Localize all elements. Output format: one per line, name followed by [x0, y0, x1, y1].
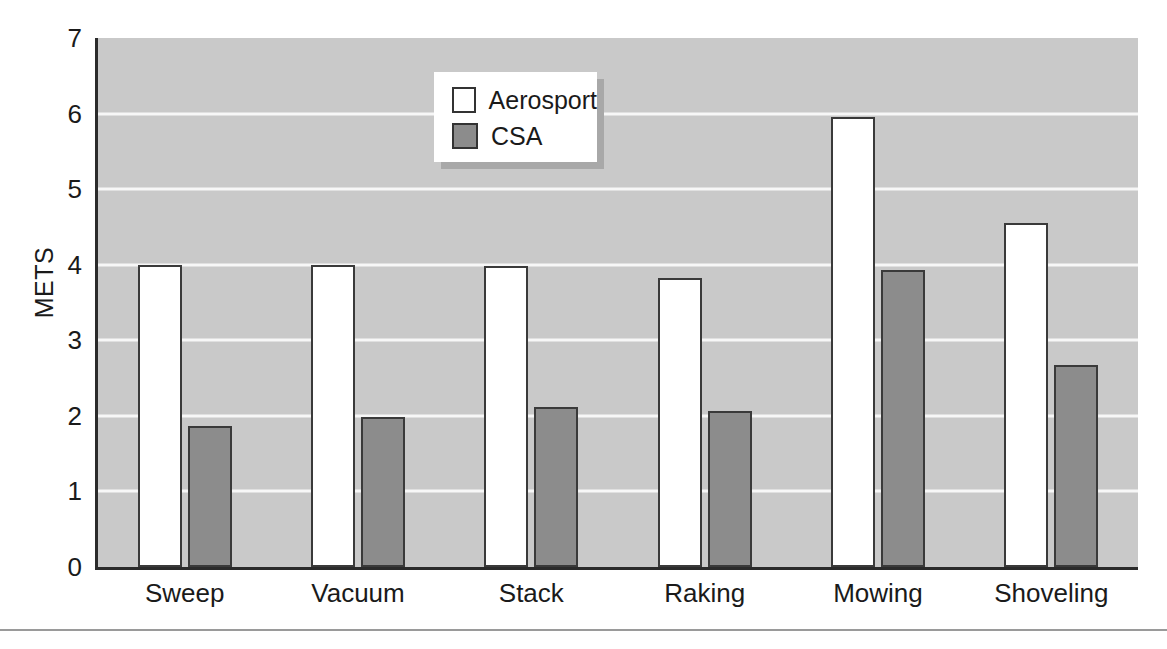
bar-shoveling-csa: [1054, 365, 1098, 567]
y-tick-4: 4: [46, 252, 82, 278]
bar-group-vacuum: [271, 38, 444, 567]
x-tick-raking: Raking: [618, 578, 791, 609]
bar-stack-csa: [534, 407, 578, 567]
bar-raking-csa: [708, 411, 752, 567]
bottom-rule: [0, 629, 1167, 631]
bar-chart-figure: METS 01234567 SweepVacuumStackRakingMowi…: [0, 0, 1167, 649]
plot-area: [95, 38, 1138, 570]
x-tick-vacuum: Vacuum: [271, 578, 444, 609]
bar-group-raking: [618, 38, 791, 567]
legend-entry-aerosport: Aerosport: [452, 83, 597, 117]
bar-vacuum-csa: [361, 417, 405, 567]
legend-label-csa: CSA: [491, 124, 542, 149]
y-tick-3: 3: [46, 327, 82, 353]
y-tick-7: 7: [46, 25, 82, 51]
bar-group-mowing: [791, 38, 964, 567]
y-axis-tick-labels: 01234567: [46, 38, 82, 567]
bar-sweep-csa: [188, 426, 232, 567]
y-tick-2: 2: [46, 403, 82, 429]
legend-swatch-aerosport: [452, 87, 476, 113]
bar-raking-aerosport: [658, 278, 702, 567]
x-axis-tick-labels: SweepVacuumStackRakingMowingShoveling: [98, 578, 1138, 609]
legend-swatch-csa: [452, 123, 478, 149]
y-tick-1: 1: [46, 478, 82, 504]
plot-inner: [98, 38, 1138, 567]
x-tick-mowing: Mowing: [791, 578, 964, 609]
chart-legend: Aerosport CSA: [434, 72, 597, 162]
bar-vacuum-aerosport: [311, 265, 355, 567]
bar-mowing-csa: [881, 270, 925, 567]
y-tick-6: 6: [46, 101, 82, 127]
bar-mowing-aerosport: [831, 117, 875, 567]
x-tick-sweep: Sweep: [98, 578, 271, 609]
y-tick-5: 5: [46, 176, 82, 202]
bar-group-shoveling: [965, 38, 1138, 567]
legend-label-aerosport: Aerosport: [489, 88, 597, 113]
bar-stack-aerosport: [484, 266, 528, 567]
x-tick-stack: Stack: [445, 578, 618, 609]
bar-shoveling-aerosport: [1004, 223, 1048, 567]
bar-group-sweep: [98, 38, 271, 567]
bar-groups: [98, 38, 1138, 567]
bar-sweep-aerosport: [138, 265, 182, 567]
x-tick-shoveling: Shoveling: [965, 578, 1138, 609]
y-tick-0: 0: [46, 554, 82, 580]
legend-entry-csa: CSA: [452, 119, 597, 153]
